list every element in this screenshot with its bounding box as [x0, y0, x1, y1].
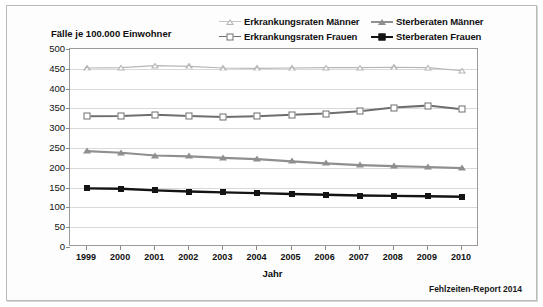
x-tick-label: 2002 — [178, 252, 198, 262]
data-point-marker — [288, 158, 296, 164]
data-point-marker — [288, 64, 296, 70]
x-tick-mark — [461, 246, 462, 250]
plot-area — [69, 48, 478, 246]
marker-inner — [221, 67, 225, 70]
data-point-marker — [219, 64, 227, 70]
series-line — [87, 188, 462, 196]
data-point-marker — [323, 192, 329, 198]
data-point-marker — [151, 152, 159, 158]
square-open-icon — [219, 31, 241, 42]
data-point-marker — [220, 114, 227, 121]
y-tick-label: 450 — [35, 62, 65, 73]
y-axis-title: Fälle je 100.000 Einwohner — [51, 28, 171, 39]
marker-inner — [85, 67, 89, 70]
data-point-marker — [186, 189, 192, 195]
data-point-marker — [459, 194, 465, 200]
x-tick-label: 2005 — [281, 252, 301, 262]
y-tick-label: 150 — [35, 181, 65, 192]
x-tick-mark — [393, 246, 394, 250]
data-point-marker — [83, 64, 91, 70]
data-point-marker — [117, 149, 125, 155]
marker-inner — [290, 67, 294, 70]
x-tick-label: 2004 — [246, 252, 266, 262]
series-layer — [70, 49, 477, 245]
x-tick-label: 2000 — [110, 252, 130, 262]
legend-item-sterberaten-maenner[interactable]: Sterberaten Männer — [371, 14, 513, 29]
y-tick-label: 300 — [35, 122, 65, 133]
x-tick-label: 2009 — [417, 252, 437, 262]
data-point-marker — [186, 112, 193, 119]
source-note: Fehlzeiten-Report 2014 — [429, 284, 522, 294]
series-line — [87, 106, 462, 117]
x-tick-label: 2006 — [315, 252, 335, 262]
y-tick-label: 500 — [35, 43, 65, 54]
data-point-marker — [390, 104, 397, 111]
x-tick-mark — [222, 246, 223, 250]
data-point-marker — [390, 64, 398, 70]
chart-figure: Erkrankungsraten Männer Sterberaten Männ… — [6, 5, 537, 301]
legend-label: Sterberaten Frauen — [396, 31, 481, 42]
data-point-marker — [424, 163, 432, 169]
marker-inner — [460, 70, 464, 73]
data-point-marker — [152, 111, 159, 118]
chart-legend: Erkrankungsraten Männer Sterberaten Männ… — [219, 14, 529, 46]
data-point-marker — [458, 67, 466, 73]
data-point-marker — [254, 113, 261, 120]
data-point-marker — [424, 102, 431, 109]
data-point-marker — [322, 64, 330, 70]
data-point-marker — [390, 163, 398, 169]
marker-inner — [153, 65, 157, 68]
marker-inner — [358, 67, 362, 70]
triangle-open-icon — [219, 16, 241, 27]
triangle-filled-icon — [371, 16, 393, 27]
y-tick-label: 0 — [35, 241, 65, 252]
marker-inner — [187, 65, 191, 68]
series-svg — [70, 49, 479, 247]
legend-label: Sterberaten Männer — [396, 16, 483, 27]
data-point-marker — [220, 189, 226, 195]
data-point-marker — [151, 62, 159, 68]
legend-label: Erkrankungsraten Männer — [244, 16, 359, 27]
data-point-marker — [322, 160, 330, 166]
square-filled-icon — [371, 31, 393, 42]
x-tick-mark — [359, 246, 360, 250]
y-tick-label: 200 — [35, 161, 65, 172]
y-axis-tick-labels: 050100150200250300350400450500 — [33, 48, 65, 246]
x-tick-mark — [291, 246, 292, 250]
data-point-marker — [424, 64, 432, 70]
data-point-marker — [253, 155, 261, 161]
data-point-marker — [117, 64, 125, 70]
marker-inner — [255, 67, 259, 70]
legend-item-erkrankungsraten-maenner[interactable]: Erkrankungsraten Männer — [219, 14, 367, 29]
data-point-marker — [152, 187, 158, 193]
marker-inner — [426, 67, 430, 70]
legend-item-sterberaten-frauen[interactable]: Sterberaten Frauen — [371, 29, 513, 44]
x-tick-label: 2003 — [212, 252, 232, 262]
data-point-marker — [458, 165, 466, 171]
marker-inner — [392, 66, 396, 69]
data-point-marker — [84, 185, 90, 191]
x-tick-mark — [427, 246, 428, 250]
data-point-marker — [118, 186, 124, 192]
y-tick-label: 350 — [35, 102, 65, 113]
series-line — [87, 151, 462, 168]
data-point-marker — [185, 63, 193, 69]
legend-item-erkrankungsraten-frauen[interactable]: Erkrankungsraten Frauen — [219, 29, 367, 44]
data-point-marker — [83, 148, 91, 154]
x-tick-mark — [188, 246, 189, 250]
x-tick-mark — [120, 246, 121, 250]
x-tick-label: 2001 — [144, 252, 164, 262]
x-axis-title: Jahr — [7, 268, 538, 279]
x-tick-mark — [154, 246, 155, 250]
data-point-marker — [288, 111, 295, 118]
data-point-marker — [253, 65, 261, 71]
data-point-marker — [254, 190, 260, 196]
x-tick-label: 2007 — [349, 252, 369, 262]
marker-inner — [324, 67, 328, 70]
y-tick-label: 100 — [35, 201, 65, 212]
x-tick-mark — [256, 246, 257, 250]
y-tick-mark — [66, 247, 70, 248]
marker-inner — [119, 67, 123, 70]
data-point-marker — [356, 108, 363, 115]
series-line — [87, 66, 462, 71]
